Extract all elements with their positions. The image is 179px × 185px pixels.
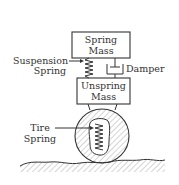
tire-spring-label-line2: Spring <box>24 133 56 144</box>
suspension-spring-coil <box>85 58 93 78</box>
suspension-diagram: Unspring Mass Spring Mass Suspension Spr… <box>0 0 179 185</box>
tire <box>75 109 129 163</box>
damper-label: Damper <box>126 63 165 74</box>
spring-mass: Spring Mass <box>72 32 130 58</box>
suspension-spring-label-line2: Spring <box>34 65 66 76</box>
suspension-spring-arrow-icon <box>69 59 84 63</box>
damper <box>107 58 123 78</box>
tire-spring-label-line1: Tire <box>30 122 50 133</box>
unspring-mass-label-line1: Unspring <box>81 80 126 91</box>
spring-mass-label-line1: Spring <box>85 34 117 45</box>
unspring-mass-label-line2: Mass <box>91 91 116 102</box>
spring-mass-label-line2: Mass <box>88 45 113 56</box>
unspring-mass: Unspring Mass <box>77 78 130 104</box>
